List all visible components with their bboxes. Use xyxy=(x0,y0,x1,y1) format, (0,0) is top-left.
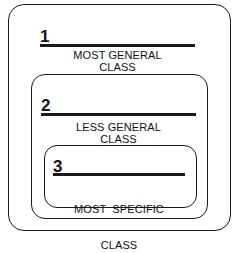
class-label-3: MOST SPECIFIC CLASS xyxy=(53,179,185,253)
class-label-1-line1: MOST GENERAL xyxy=(40,49,195,61)
class-label-2: LESS GENERAL CLASS xyxy=(41,121,196,145)
class-number-1: 1 xyxy=(40,28,49,45)
class-label-1: MOST GENERAL CLASS xyxy=(40,49,195,73)
class-number-2: 2 xyxy=(41,97,50,114)
class-label-2-line1: LESS GENERAL xyxy=(41,121,196,133)
class-rule-3 xyxy=(53,173,185,176)
class-label-2-line2: CLASS xyxy=(41,133,196,145)
class-rule-2 xyxy=(41,113,196,116)
class-label-3-line2: CLASS xyxy=(53,239,185,251)
class-label-3-line1: MOST SPECIFIC xyxy=(53,203,185,215)
class-rule-1 xyxy=(40,44,195,47)
class-label-1-line2: CLASS xyxy=(40,61,195,73)
